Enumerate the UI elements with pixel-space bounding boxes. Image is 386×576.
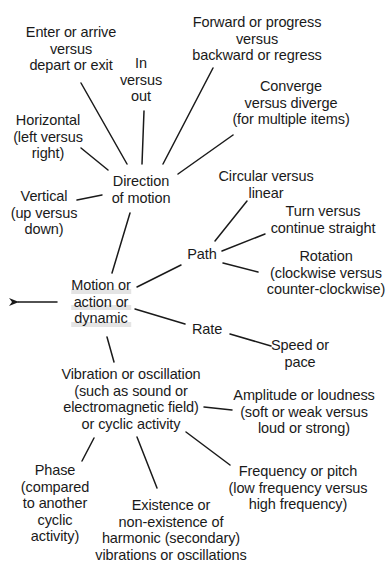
edge-motion-path	[137, 265, 181, 287]
edge-path-circular	[215, 201, 247, 241]
edge-motion-direction	[112, 213, 130, 273]
node-speed: Speed or pace	[271, 337, 329, 370]
node-existence: Existence or non-existence of harmonic (…	[95, 497, 246, 563]
node-vertical: Vertical (up versus down)	[11, 188, 78, 238]
node-circular: Circular versus linear	[218, 168, 313, 201]
node-amplitude: Amplitude or loudness (soft or weak vers…	[233, 387, 374, 437]
edge-vibration-existence	[137, 437, 157, 488]
node-phase: Phase (compared to another cyclic activi…	[21, 462, 89, 545]
node-horizontal: Horizontal (left versus right)	[13, 112, 83, 162]
node-frequency: Frequency or pitch (low frequency versus…	[229, 463, 368, 513]
node-forward: Forward or progress versus backward or r…	[192, 14, 321, 64]
edge-path-rotation	[223, 263, 258, 272]
node-motion-root: Motion or action or dynamic	[71, 277, 131, 327]
node-path: Path	[187, 246, 216, 263]
edge-vibration-frequency	[186, 432, 230, 465]
edge-vibration-phase	[82, 438, 94, 461]
node-rotation: Rotation (clockwise versus counter-clock…	[267, 248, 385, 298]
node-direction: Direction of motion	[112, 173, 171, 206]
edge-direction-inout	[142, 111, 144, 164]
node-converge: Converge versus diverge (for multiple it…	[232, 78, 349, 128]
edge-direction-forward	[163, 68, 213, 164]
node-rate: Rate	[192, 321, 222, 338]
motion-concept-map: Forward or progress versus backward or r…	[0, 0, 386, 576]
edge-vibration-amplitude	[204, 407, 232, 410]
node-in-out: In versus out	[120, 55, 162, 105]
edge-rate-speed	[230, 334, 271, 346]
node-enter: Enter or arrive versus depart or exit	[26, 24, 116, 74]
edge-direction-horizontal	[81, 148, 108, 170]
edge-motion-rate	[135, 309, 185, 324]
edge-direction-vertical	[77, 195, 102, 200]
node-vibration: Vibration or oscillation (such as sound …	[61, 366, 200, 432]
edge-path-turn	[222, 234, 265, 251]
node-turn: Turn versus continue straight	[271, 203, 376, 236]
edge-motion-vibration	[107, 337, 114, 362]
